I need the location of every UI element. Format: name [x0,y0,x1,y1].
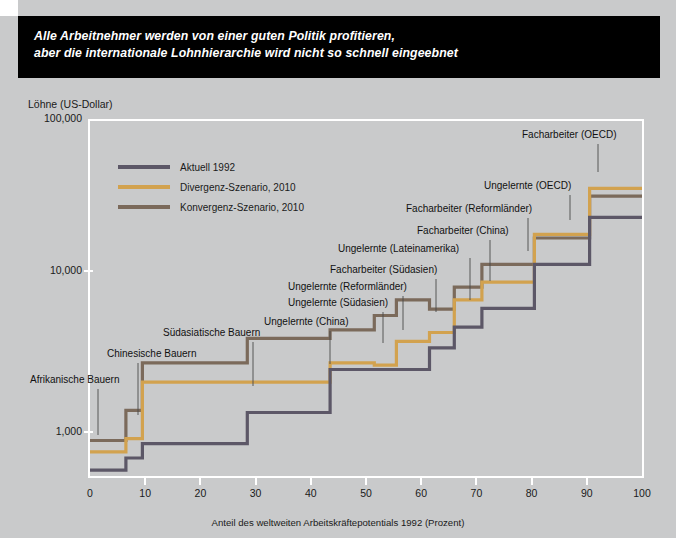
annotation-label: Afrikanische Bauern [30,374,120,385]
series-line [90,217,642,470]
legend: Aktuell 1992Divergenz-Szenario, 2010Konv… [118,157,304,217]
x-tick-mark [475,478,477,485]
x-tick-label: 100 [622,487,662,499]
x-tick-label: 0 [70,487,110,499]
y-tick-label-100000: 100,000 [10,112,82,124]
annotation-label: Ungelernte (Lateinamerika) [338,243,459,254]
x-tick-mark [310,478,312,485]
annotation-label: Facharbeiter (Südasien) [330,264,437,275]
title-text: Alle Arbeitnehmer werden von einer guten… [34,28,634,62]
chart-page: Alle Arbeitnehmer werden von einer guten… [0,0,676,550]
y-tick-label-10000: 10,000 [10,264,82,276]
x-tick-label: 10 [125,487,165,499]
legend-item: Konvergenz-Szenario, 2010 [118,197,304,217]
legend-swatch [118,185,170,189]
x-tick-mark [531,478,533,485]
annotation-label: Ungelernte (China) [264,316,349,327]
series-line [90,196,642,440]
x-tick-mark [255,478,257,485]
annotation-label: Facharbeiter (OECD) [522,129,616,140]
x-tick-mark [365,478,367,485]
title-line-2: aber die internationale Lohnhierarchie w… [34,45,634,62]
y-axis-title: Löhne (US-Dollar) [28,98,113,110]
legend-swatch [118,205,170,209]
x-tick-label: 30 [236,487,276,499]
annotation-label: Facharbeiter (China) [417,225,509,236]
x-tick-label: 60 [401,487,441,499]
x-tick-mark [199,478,201,485]
annotation-label: Facharbeiter (Reformländer) [406,203,532,214]
x-tick-label: 50 [346,487,386,499]
x-tick-mark [420,478,422,485]
top-left-margin [0,0,18,16]
y-tick-label-1000: 1,000 [10,425,82,437]
legend-item: Divergenz-Szenario, 2010 [118,177,304,197]
x-axis-caption: Anteil des weltweiten Arbeitskräftepoten… [0,517,676,528]
bottom-margin [0,538,676,550]
x-tick-label: 70 [456,487,496,499]
x-tick-label: 80 [512,487,552,499]
x-tick-label: 20 [180,487,220,499]
x-tick-mark [586,478,588,485]
annotation-label: Chinesische Bauern [107,348,197,359]
legend-label: Divergenz-Szenario, 2010 [180,182,296,193]
annotation-label: Ungelernte (Reformländer) [288,281,407,292]
annotation-label: Ungelernte (OECD) [484,180,571,191]
annotation-label: Ungelernte (Südasien) [288,297,388,308]
legend-label: Konvergenz-Szenario, 2010 [180,202,304,213]
title-line-1: Alle Arbeitnehmer werden von einer guten… [34,28,634,45]
legend-swatch [118,165,170,169]
x-tick-label: 90 [567,487,607,499]
legend-item: Aktuell 1992 [118,157,304,177]
x-tick-mark [144,478,146,485]
annotation-label: Südasiatische Bauern [163,327,260,338]
x-tick-label: 40 [291,487,331,499]
series-line [90,188,642,452]
legend-label: Aktuell 1992 [180,162,235,173]
